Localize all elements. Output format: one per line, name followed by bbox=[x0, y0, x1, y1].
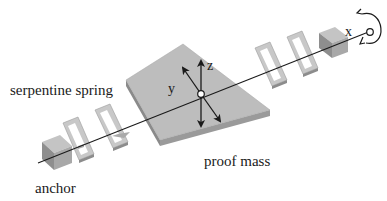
z-axis-label: z bbox=[207, 58, 213, 73]
proof-mass-label: proof mass bbox=[204, 153, 270, 169]
x-axis-label: x bbox=[345, 24, 352, 39]
anchor-label: anchor bbox=[35, 180, 76, 196]
rotation-arrow-icon bbox=[357, 9, 381, 44]
right-anchor bbox=[319, 27, 348, 58]
left-serpentine-spring bbox=[63, 104, 130, 163]
origin-circle-icon bbox=[198, 91, 205, 98]
serpentine-spring-label: serpentine spring bbox=[10, 82, 113, 98]
spring-loop bbox=[255, 42, 287, 89]
y-axis-label: y bbox=[168, 81, 175, 96]
left-anchor bbox=[42, 135, 72, 170]
spring-loop bbox=[95, 104, 128, 151]
mems-diagram: x y z serpentine spring proof mass ancho… bbox=[0, 0, 387, 201]
right-serpentine-spring bbox=[255, 31, 318, 89]
x-axis-endpoint-circle bbox=[367, 29, 374, 36]
